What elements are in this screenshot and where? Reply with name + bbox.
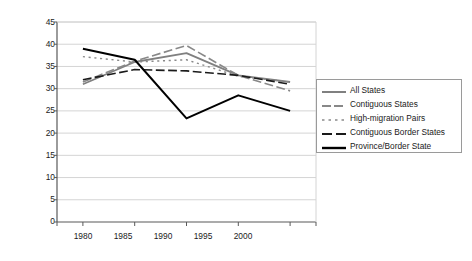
- legend-item-province-border-state[interactable]: Province/Border State: [321, 139, 431, 153]
- gridlines: [57, 22, 316, 200]
- legend-swatch-high-migration-pairs: [321, 112, 347, 124]
- legend-item-all-states[interactable]: All States: [321, 83, 385, 97]
- legend-swatch-contiguous-states: [321, 98, 347, 110]
- legend-item-contiguous-border-states[interactable]: Contiguous Border States: [321, 125, 445, 139]
- legend-label-contiguous-states: Contiguous States: [350, 99, 418, 109]
- legend-item-contiguous-states[interactable]: Contiguous States: [321, 97, 418, 111]
- legend-swatch-contiguous-border-states: [321, 126, 347, 138]
- legend-label-all-states: All States: [350, 85, 385, 95]
- x-axis-ticks: [57, 222, 316, 226]
- legend-label-high-migration-pairs: High-migration Pairs: [350, 113, 425, 123]
- legend-swatch-province-border-state: [321, 140, 347, 152]
- legend-swatch-all-states: [321, 84, 347, 96]
- legend-item-high-migration-pairs[interactable]: High-migration Pairs: [321, 111, 425, 125]
- legend: All States Contiguous States High-migrat…: [316, 79, 462, 153]
- line-chart: Average % Difference in Matched Pairs 45…: [0, 0, 472, 261]
- series-lines: [83, 46, 290, 119]
- legend-label-province-border-state: Province/Border State: [350, 141, 431, 151]
- legend-label-contiguous-border-states: Contiguous Border States: [350, 127, 445, 137]
